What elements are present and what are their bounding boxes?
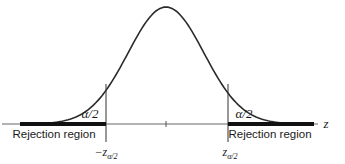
left-critical-value-label: −zα/2: [94, 145, 117, 161]
axis-label-z: z: [322, 116, 328, 131]
right-critical-value-label: zα/2: [221, 145, 237, 161]
bell-curve: [20, 7, 314, 124]
alpha-half-subscript: α/2: [107, 152, 117, 161]
right-rejection-region-label: Rejection region: [228, 128, 311, 140]
normal-distribution-diagram: α/2 α/2 Rejection region Rejection regio…: [0, 0, 345, 164]
alpha-half-subscript: α/2: [227, 152, 237, 161]
right-tail-area-label: α/2: [236, 106, 253, 121]
left-tail-area-label: α/2: [82, 106, 99, 121]
minus-sign: −: [94, 145, 102, 159]
left-rejection-region-label: Rejection region: [12, 128, 95, 140]
